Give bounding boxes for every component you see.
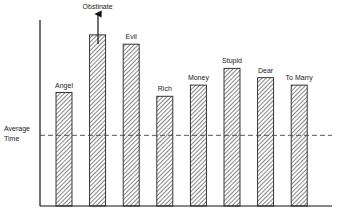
bar-obstinate (90, 35, 106, 206)
bar-label-to-marry: To Marry (286, 74, 314, 82)
bar-dear (258, 78, 274, 206)
bar-label-money: Money (188, 74, 210, 82)
bar-label-stupid: Stupid (222, 57, 242, 65)
average-label-line2: Time (4, 135, 19, 142)
bar-label-obstinate: Obstinate (83, 3, 113, 10)
bar-label-angel: Angel (55, 82, 73, 90)
bar-label-dear: Dear (258, 67, 274, 74)
bar-rich (157, 96, 173, 206)
bar-to-marry (291, 85, 307, 206)
average-label-line1: Average (4, 125, 30, 133)
bar-label-evil: Evil (126, 33, 138, 40)
bar-label-rich: Rich (158, 85, 172, 92)
bar-money (190, 85, 206, 206)
bars-group: AngelObstinateEvilRichMoneyStupidDearTo … (55, 3, 313, 206)
bar-angel (56, 93, 72, 206)
bar-evil (123, 44, 139, 206)
bar-chart: AngelObstinateEvilRichMoneyStupidDearTo … (0, 0, 338, 213)
bar-stupid (224, 68, 240, 206)
